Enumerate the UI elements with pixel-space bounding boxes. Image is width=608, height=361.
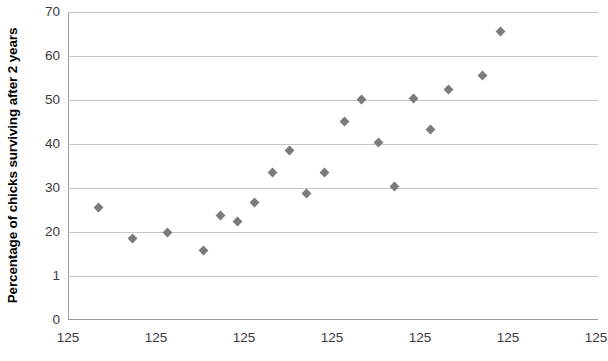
x-axis-tick-label: 125	[131, 331, 181, 345]
x-axis-tick-labels: 125125125125125125125	[0, 0, 608, 361]
x-axis-tick-label: 125	[483, 331, 533, 345]
x-axis-tick-label: 125	[43, 331, 93, 345]
x-axis-tick-label: 125	[307, 331, 357, 345]
x-axis-tick-label: 125	[219, 331, 269, 345]
x-axis-tick-label: 125	[571, 331, 608, 345]
x-axis-tick-label: 125	[395, 331, 445, 345]
scatter-chart: Percentage of chicks surviving after 2 y…	[0, 0, 608, 361]
